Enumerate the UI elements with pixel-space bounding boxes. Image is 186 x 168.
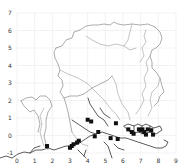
y-tick-label: 1 (8, 114, 12, 121)
y-tick-label: 2 (8, 97, 12, 104)
site-marker (45, 144, 49, 148)
site-marker (77, 139, 81, 143)
site-marker (116, 137, 120, 141)
x-tick-label: 0 (15, 157, 19, 164)
site-marker (72, 142, 76, 146)
x-tick-label: 8 (156, 157, 160, 164)
region-outlines (0, 22, 168, 158)
site-marker (96, 130, 100, 134)
site-marker (93, 134, 97, 138)
x-tick-label: 9 (174, 157, 178, 164)
site-markers (45, 118, 155, 150)
site-marker (151, 133, 155, 137)
site-marker (144, 133, 148, 137)
y-tick-label: -1 (7, 149, 13, 156)
site-marker (132, 132, 136, 136)
y-tick-label: 6 (8, 27, 12, 34)
x-axis-ticks: 0123456789 (15, 157, 178, 164)
site-marker (149, 128, 153, 132)
map-figure: 0123456789 76543210-1 (0, 0, 186, 168)
river-east (136, 56, 150, 114)
x-tick-label: 3 (68, 157, 72, 164)
catchment-boundary (56, 22, 164, 106)
site-marker (109, 136, 113, 140)
y-tick-label: 0 (8, 132, 12, 139)
river-midsouth (112, 76, 130, 120)
y-tick-label: 3 (8, 79, 12, 86)
southwest-boundary (64, 76, 112, 98)
x-tick-label: 5 (103, 157, 107, 164)
x-tick-label: 4 (86, 157, 90, 164)
estuary-spur (100, 108, 110, 118)
x-tick-label: 7 (139, 157, 143, 164)
y-tick-label: 7 (8, 9, 12, 16)
y-axis-ticks: 76543210-1 (7, 9, 13, 156)
coastline (0, 132, 168, 158)
map-canvas: 0123456789 76543210-1 (0, 0, 186, 168)
site-marker (126, 127, 130, 131)
south-stream-3 (114, 144, 124, 150)
river-west-stream (40, 108, 44, 146)
far-west-boundary (21, 96, 52, 150)
site-marker (146, 127, 150, 131)
river-central (60, 70, 120, 120)
west-boundary (54, 48, 72, 132)
x-tick-label: 1 (33, 157, 37, 164)
x-tick-label: 2 (50, 157, 54, 164)
river-east-inner (124, 24, 132, 46)
y-tick-label: 5 (8, 44, 12, 51)
site-marker (86, 118, 90, 122)
y-tick-label: 4 (8, 62, 12, 69)
x-tick-label: 6 (121, 157, 125, 164)
far-west-spur (21, 101, 40, 132)
site-marker (114, 121, 118, 125)
site-marker (89, 120, 93, 124)
